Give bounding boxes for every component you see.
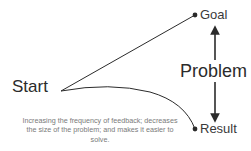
result-dot bbox=[193, 127, 198, 132]
start-label: Start bbox=[12, 78, 48, 95]
result-label: Result bbox=[200, 122, 237, 135]
goal-dot bbox=[193, 13, 198, 18]
problem-label: Problem bbox=[180, 62, 247, 80]
caption-text: Increasing the frequency of feedback; de… bbox=[20, 116, 180, 144]
goal-label: Goal bbox=[200, 8, 227, 21]
start-to-goal-line bbox=[61, 15, 195, 91]
